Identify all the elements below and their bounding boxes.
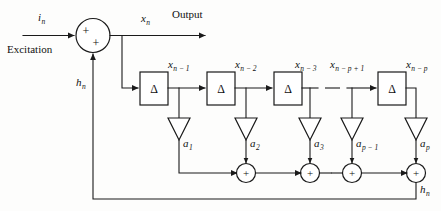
- delay-block-2-glyph: Δ: [217, 82, 225, 96]
- output-signal-label: xn: [140, 12, 150, 27]
- gain-label-ap: ap: [420, 137, 430, 152]
- tap-label-x-n-p-plus-1: xn − p + 1: [329, 58, 364, 73]
- delay-block-3-glyph: Δ: [284, 82, 292, 96]
- input-signal-label: in: [38, 11, 45, 26]
- tap-label-x-n-p: xn − p: [405, 58, 428, 73]
- delay-chain-feed-wire: [122, 36, 138, 89]
- adder-2-plus: +: [307, 167, 313, 179]
- gain-label-a2: a2: [250, 137, 260, 152]
- adder-3-plus: +: [349, 167, 355, 179]
- feedback-label-left: hn: [76, 76, 86, 91]
- gain-label-a3: a3: [314, 137, 324, 152]
- gain-label-ap-1: ap − 1: [356, 137, 378, 152]
- tap-label-x-n-2: xn − 2: [234, 58, 257, 73]
- filter-block-diagram: in Excitation + + xn Output Δ xn − 1 Δ x…: [0, 0, 441, 211]
- excitation-label: Excitation: [7, 43, 53, 55]
- diagram-canvas: in Excitation + + xn Output Δ xn − 1 Δ x…: [0, 0, 441, 211]
- tap-p-down-wire: [406, 88, 416, 118]
- delay-block-p-glyph: Δ: [388, 82, 396, 96]
- feedback-label-right: hn: [420, 183, 430, 198]
- delay-block-1-glyph: Δ: [150, 82, 158, 96]
- summing-junction-plus-top: +: [83, 24, 90, 38]
- tap-label-x-n-3: xn − 3: [294, 58, 317, 73]
- gain-label-a1: a1: [183, 137, 193, 152]
- tap-label-x-n-1: xn − 1: [167, 58, 190, 73]
- output-word-label: Output: [172, 8, 203, 20]
- adder-1-plus: +: [243, 167, 249, 179]
- adder-4-plus: +: [413, 167, 419, 179]
- summing-junction-plus-bottom: +: [93, 36, 100, 50]
